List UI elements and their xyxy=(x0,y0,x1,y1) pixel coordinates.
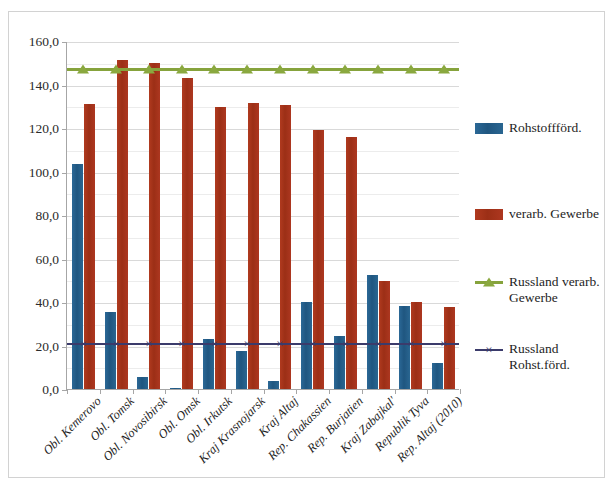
chart-legend: Rohstoffförd.verarb. GewerbeRussland ver… xyxy=(475,48,607,448)
x-marker-icon: × xyxy=(78,337,89,348)
x-marker-icon: × xyxy=(143,337,154,348)
x-marker-icon: × xyxy=(176,337,187,348)
bar-rohstoffford xyxy=(236,351,247,389)
y-axis-tick-label: 120,0 xyxy=(13,121,59,137)
legend-label: Rohstoffförd. xyxy=(509,120,582,136)
legend-label: Russland verarb. Gewerbe xyxy=(509,274,607,307)
y-axis-tick-label: 140,0 xyxy=(13,78,59,94)
triangle-marker-icon xyxy=(77,65,89,74)
triangle-marker-icon xyxy=(176,65,188,74)
triangle-marker-icon xyxy=(339,65,351,74)
legend-label: verarb. Gewerbe xyxy=(509,206,599,222)
x-marker-icon: × xyxy=(111,337,122,348)
y-axis-tick-label: 160,0 xyxy=(13,34,59,50)
bar-rohstoffford xyxy=(268,381,279,389)
x-marker-icon: × xyxy=(307,337,318,348)
legend-swatch-blue-icon xyxy=(475,123,503,134)
bar-rohstoffford xyxy=(367,275,378,389)
triangle-marker-icon xyxy=(307,65,319,74)
legend-label: Russland Rohst.förd. xyxy=(509,341,607,374)
plot-area: 0,020,040,060,080,0100,0120,0140,0160,0×… xyxy=(66,42,459,390)
y-axis-tick-label: 80,0 xyxy=(13,208,59,224)
y-axis-tick-label: 20,0 xyxy=(13,339,59,355)
chart-frame: 0,020,040,060,080,0100,0120,0140,0160,0×… xyxy=(8,11,605,478)
x-marker-icon: × xyxy=(340,337,351,348)
triangle-marker-icon xyxy=(405,65,417,74)
triangle-marker-icon xyxy=(241,65,253,74)
legend-entry: Rohstoffförd. xyxy=(475,120,607,136)
legend-line-purple-x-icon xyxy=(475,344,503,355)
x-marker-icon: × xyxy=(274,337,285,348)
bar-rohstoffford xyxy=(72,164,83,389)
triangle-marker-icon xyxy=(208,65,220,74)
legend-swatch-red-icon xyxy=(475,209,503,220)
x-marker-icon: × xyxy=(209,337,220,348)
reference-line-russland-verarb-gewerbe xyxy=(67,68,459,71)
bar-rohstoffford xyxy=(137,377,148,389)
plot-wrapper: 0,020,040,060,080,0100,0120,0140,0160,0×… xyxy=(9,12,604,477)
legend-entry: verarb. Gewerbe xyxy=(475,206,607,222)
x-marker-icon: × xyxy=(405,337,416,348)
x-marker-icon: × xyxy=(242,337,253,348)
legend-line-green-triangle-icon xyxy=(475,277,503,288)
triangle-marker-icon xyxy=(110,65,122,74)
triangle-marker-icon xyxy=(274,65,286,74)
bar-verarb-gewerbe xyxy=(313,130,324,389)
x-marker-icon: × xyxy=(438,337,449,348)
triangle-marker-icon xyxy=(438,65,450,74)
x-marker-icon: × xyxy=(373,337,384,348)
reference-line-russland-rohstoffford xyxy=(67,343,459,345)
bar-rohstoffford xyxy=(170,388,181,389)
y-axis-tick-label: 0,0 xyxy=(13,382,59,398)
legend-entry: Russland verarb. Gewerbe xyxy=(475,274,607,307)
x-axis-labels: Obl. KemerovoObl. TomskObl. NovosibirskO… xyxy=(66,394,459,497)
y-axis-tick-label: 60,0 xyxy=(13,252,59,268)
bar-rohstoffford xyxy=(105,312,116,389)
triangle-marker-icon xyxy=(372,65,384,74)
bar-verarb-gewerbe xyxy=(346,137,357,389)
bar-rohstoffford xyxy=(432,363,443,389)
triangle-marker-icon xyxy=(143,65,155,74)
y-axis-tick-label: 40,0 xyxy=(13,295,59,311)
y-axis-tick-label: 100,0 xyxy=(13,165,59,181)
x-axis-tick-mark xyxy=(460,389,461,394)
legend-entry: Russland Rohst.förd. xyxy=(475,341,607,374)
